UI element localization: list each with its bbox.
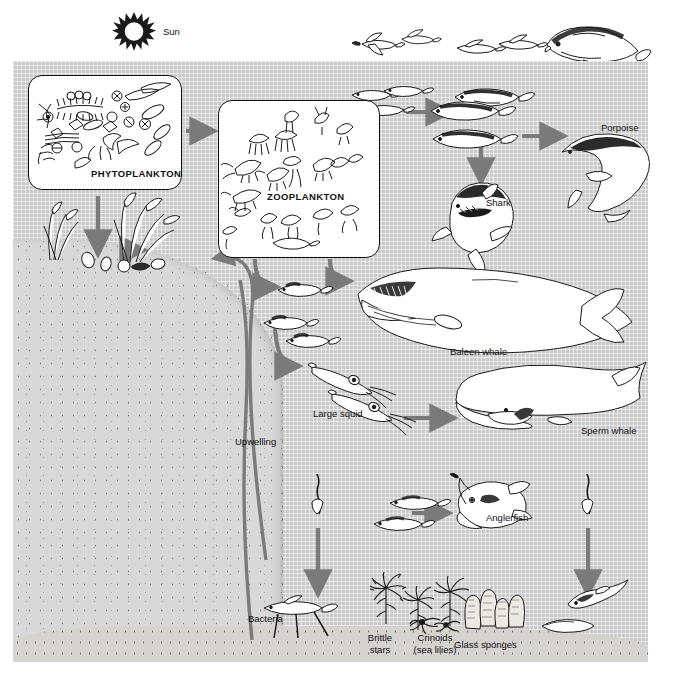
bacteria-label: Bacteria [248,613,283,624]
copepod-icon [221,190,261,211]
copepod-icon [221,160,261,183]
large-squid-label: Large squid [313,408,363,419]
zooplankton-box[interactable]: ZOOPLANKTON [218,100,380,258]
zooplankton-label: ZOOPLANKTON [267,191,345,202]
phytoplankton-label: PHYTOPLANKTON [91,168,181,179]
brittle-stars-label-line2: stars [358,644,402,655]
brittle-stars-label-line1: Brittle [358,632,402,643]
phytoplankton-box[interactable]: PHYTOPLANKTON [28,75,182,190]
porpoise-label: Porpoise [601,122,639,133]
sun-label: Sun [163,26,180,37]
glass-sponges-label: Glass sponges [454,639,517,650]
flying-fish-icon [352,33,405,55]
fish-larva-icon [273,238,320,249]
diatom-chain-icon [57,97,103,121]
upwelling-label: Upwelling [235,436,276,447]
food-web-figure: Sun [0,0,679,688]
flying-fish-icon [402,30,442,44]
continental-slope [13,240,288,662]
copepod-icon [313,158,335,181]
flying-fish-icon [499,35,548,49]
medusa-icon [275,130,297,152]
anglerfish-label: Anglerfish [486,512,528,523]
shark-label: Shark [486,197,511,208]
medusa-icon [249,134,269,155]
flying-fish-icon [457,40,506,53]
baleen-whale-label: Baleen whale [450,346,507,357]
sun-icon [112,10,156,54]
sperm-whale-label: Sperm whale [581,425,636,436]
zooplankton-illustration [219,101,379,257]
deep-sea-floor [13,612,648,662]
copepod-icon [255,168,289,191]
